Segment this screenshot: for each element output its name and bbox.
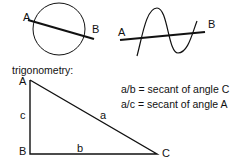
circle-secant-figure [28,3,94,55]
equation-secant-c: a/b = secant of angle C [121,83,229,95]
equation-secant-a: a/c = secant of angle A [121,98,228,110]
circle-label-b: B [92,24,99,35]
diagram-canvas [0,0,242,158]
sine-secant-figure [120,8,205,56]
sine-curve [137,8,197,56]
sine-label-b: B [208,19,215,30]
triangle-side-b: b [77,143,83,154]
circle-label-a: A [23,12,30,23]
sine-label-a: A [118,27,125,38]
triangle-side-a: a [100,110,106,121]
triangle-side-c: c [20,110,26,121]
triangle-vertex-a: A [19,76,26,87]
triangle-vertex-c: C [162,148,170,158]
triangle-vertex-b: B [19,146,26,157]
